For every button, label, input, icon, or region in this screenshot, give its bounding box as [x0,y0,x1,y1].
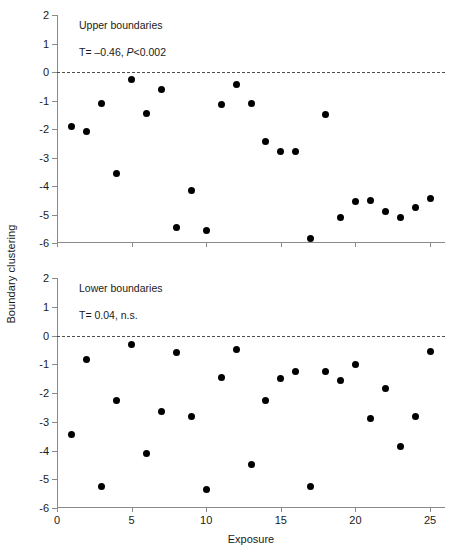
data-point [248,461,255,468]
y-tick-lower [52,336,57,337]
y-tick-lower [52,422,57,423]
y-tick-upper [52,72,57,73]
x-tick-upper [430,243,431,247]
data-point [218,374,225,381]
data-point [427,195,434,202]
y-tick-upper [52,44,57,45]
data-point [188,413,195,420]
x-tick-label: 5 [129,514,135,526]
data-point [158,86,165,93]
x-tick-upper [57,243,58,247]
data-point [262,138,269,145]
data-point [292,148,299,155]
data-point [218,101,225,108]
y-tick-label-upper: -2 [39,123,49,135]
panel-label-lower: Lower boundaries [79,282,162,294]
x-axis-line-lower [57,507,445,508]
data-point [128,76,135,83]
y-tick-label-upper: -4 [39,180,49,192]
y-tick-upper [52,186,57,187]
data-point [397,443,404,450]
statistic-annotation-lower: T= 0.04, n.s. [79,309,138,321]
x-tick-upper [206,243,207,247]
data-point [233,81,240,88]
y-tick-label-lower: 1 [43,301,49,313]
data-point [337,377,344,384]
y-tick-label-lower: 2 [43,272,49,284]
data-point [113,170,120,177]
y-tick-label-upper: 2 [43,9,49,21]
y-tick-label-upper: -1 [39,95,49,107]
y-tick-upper [52,129,57,130]
data-point [188,187,195,194]
data-point [143,110,150,117]
data-point [367,197,374,204]
plot-area-lower: Lower boundaries T= 0.04, n.s. 210-1-2-3… [57,278,445,508]
data-point [143,450,150,457]
y-tick-label-upper: 0 [43,66,49,78]
data-point [233,346,240,353]
x-tick-lower [281,508,282,512]
x-tick-label: 15 [275,514,287,526]
y-tick-label-upper: -6 [39,237,49,249]
plot-area-upper: Upper boundaries T= –0.46, P<0.002 210-1… [57,15,445,243]
x-tick-label: 10 [200,514,212,526]
y-tick-upper [52,158,57,159]
data-point [68,431,75,438]
x-tick-upper [355,243,356,247]
panel-upper-boundaries: Upper boundaries T= –0.46, P<0.002 210-1… [0,0,459,262]
data-point [382,208,389,215]
y-axis-line-upper [57,15,58,243]
x-tick-label: 25 [424,514,436,526]
y-tick-lower [52,364,57,365]
data-point [158,408,165,415]
y-tick-label-lower: -6 [39,502,49,514]
panel-label-upper: Upper boundaries [79,19,162,31]
data-point [367,415,374,422]
tau-value-lower: = 0.04, n.s. [85,309,137,321]
zero-reference-line-upper [57,72,445,73]
data-point [262,397,269,404]
figure-scatter-boundary-clustering: Boundary clustering Upper boundaries T= … [0,0,459,547]
data-point [83,356,90,363]
y-tick-label-lower: -2 [39,387,49,399]
data-point [412,204,419,211]
data-point [128,341,135,348]
y-tick-label-lower: -1 [39,358,49,370]
data-point [292,368,299,375]
data-point [68,123,75,130]
data-point [397,214,404,221]
x-tick-lower [132,508,133,512]
data-point [113,397,120,404]
y-tick-label-upper: -3 [39,152,49,164]
x-tick-lower [355,508,356,512]
statistic-annotation-upper: T= –0.46, P<0.002 [79,46,166,58]
y-tick-label-lower: -4 [39,445,49,457]
p-value-upper: <0.002 [134,46,166,58]
p-symbol-upper: P [127,46,134,58]
zero-reference-line-lower [57,336,445,337]
data-point [352,198,359,205]
data-point [98,100,105,107]
data-point [307,483,314,490]
x-axis-line-upper [57,242,445,243]
y-tick-lower [52,278,57,279]
x-tick-label: 0 [54,514,60,526]
x-tick-lower [57,508,58,512]
y-tick-upper [52,101,57,102]
data-point [337,214,344,221]
data-point [427,348,434,355]
data-point [322,111,329,118]
data-point [173,349,180,356]
y-axis-line-lower [57,278,58,508]
tau-value-upper: = –0.46, [85,46,126,58]
x-tick-upper [132,243,133,247]
data-point [173,224,180,231]
y-tick-lower [52,451,57,452]
x-tick-upper [281,243,282,247]
data-point [322,368,329,375]
y-tick-upper [52,15,57,16]
data-point [203,486,210,493]
y-tick-upper [52,215,57,216]
x-tick-lower [206,508,207,512]
